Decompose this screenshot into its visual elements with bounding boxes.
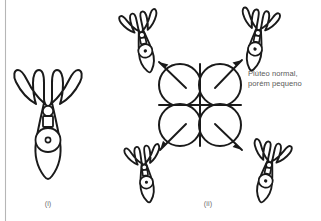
larva-small-bottom-right [243, 139, 293, 207]
embryo-blastomere-bottom-left [159, 104, 201, 146]
larva-large-normal [14, 70, 81, 179]
larva-small-top-right [233, 7, 281, 74]
figure-root: Plúteo normal, porém pequeno (i) (ii) [0, 0, 321, 221]
pluteus-label-line-2: porém pequeno [248, 79, 302, 88]
larva-small-bottom-left [124, 144, 167, 205]
larva-small-top-left [119, 9, 169, 77]
larva-esophagus-segment [264, 167, 271, 174]
four-cell-embryo [159, 64, 241, 146]
larva-esophagus-segment [43, 116, 53, 127]
figure-canvas: Plúteo normal, porém pequeno (i) (ii) [0, 0, 321, 221]
larva-nucleus-dot [45, 137, 50, 142]
larva-esophagus-segment [140, 37, 147, 44]
embryo-blastomere-top-right [199, 64, 241, 106]
caption-panel-i: (i) [45, 199, 52, 208]
larva-esophagus-segment [142, 170, 148, 176]
embryo-blastomere-top-left [159, 64, 201, 106]
larva-esophagus-segment [254, 35, 261, 42]
embryo-blastomere-bottom-right [199, 104, 241, 146]
caption-panel-ii: (ii) [204, 199, 212, 208]
pluteus-label-line-1: Plúteo normal, [248, 69, 298, 78]
larva-mouth-circle [43, 106, 53, 116]
